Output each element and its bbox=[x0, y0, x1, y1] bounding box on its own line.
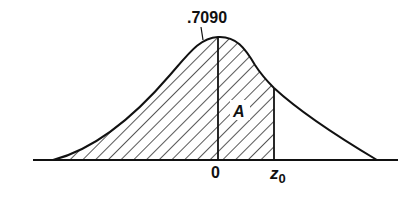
z0-label: z0 bbox=[269, 164, 286, 186]
z0-label-subscript: 0 bbox=[279, 171, 286, 186]
peak-leader-line bbox=[201, 27, 203, 40]
z0-label-base: z bbox=[269, 164, 279, 183]
normal-curve-diagram: .7090 A 0 z0 bbox=[0, 0, 418, 198]
area-label: A bbox=[232, 103, 245, 120]
peak-value-label: .7090 bbox=[187, 9, 227, 26]
origin-label: 0 bbox=[211, 164, 220, 181]
